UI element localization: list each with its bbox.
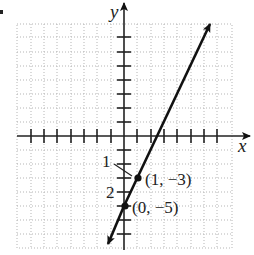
point-label-0-neg5: (0, −5) [132,199,178,216]
coordinate-graph [0,0,254,255]
point-label-1-neg3: (1, −3) [145,171,191,188]
x-axis-label: x [238,136,246,155]
callout-2: 2 [106,184,115,201]
graphed-line-lower [108,206,124,244]
point-0-neg5 [121,202,128,209]
callout-1: 1 [102,153,111,170]
callout-leader [114,164,132,176]
y-axis-label: y [110,2,118,21]
point-1-neg3 [134,174,141,181]
